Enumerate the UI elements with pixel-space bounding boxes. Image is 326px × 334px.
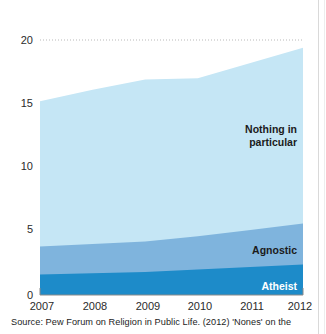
series-label-nothing-line2: particular <box>249 136 297 148</box>
stacked-area-chart: 20 15 10 5 0 2007 2008 2009 2010 2011 20… <box>0 0 318 312</box>
xtick-label-2010: 2010 <box>188 300 212 312</box>
ytick-label-5: 5 <box>27 223 33 235</box>
ytick-label-20: 20 <box>21 34 33 46</box>
xtick-label-2012: 2012 <box>288 300 312 312</box>
chart-plot-area: 20 15 10 5 0 2007 2008 2009 2010 2011 20… <box>0 0 318 312</box>
xtick-label-2007: 2007 <box>30 300 54 312</box>
ytick-label-10: 10 <box>21 160 33 172</box>
page-edge-rule-secondary <box>324 0 325 334</box>
xtick-label-2009: 2009 <box>136 300 160 312</box>
xtick-label-2008: 2008 <box>83 300 107 312</box>
series-label-nothing-line1: Nothing in <box>245 123 297 135</box>
ytick-label-15: 15 <box>21 97 33 109</box>
page-edge-rule <box>318 0 319 334</box>
figure-container: 20 15 10 5 0 2007 2008 2009 2010 2011 20… <box>0 0 326 334</box>
series-label-agnostic: Agnostic <box>252 244 297 256</box>
xtick-label-2011: 2011 <box>240 300 264 312</box>
series-label-atheist: Atheist <box>261 280 297 292</box>
source-note: Source: Pew Forum on Religion in Public … <box>11 316 316 328</box>
